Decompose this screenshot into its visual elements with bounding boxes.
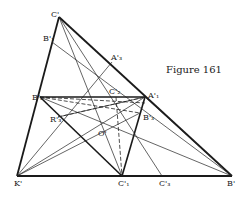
point-label-b3: B'₃ xyxy=(143,114,154,122)
figure-caption: Figure 161 xyxy=(166,64,222,75)
point-label-a3: A'₃ xyxy=(111,54,122,62)
point-label-c: C' xyxy=(51,11,59,19)
point-label-r3: R'₃ xyxy=(50,116,61,124)
point-label-b1: B'₁ xyxy=(43,35,54,43)
point-label-o: O' xyxy=(98,130,107,138)
point-label-c3: C'₃ xyxy=(159,180,171,188)
point-label-c2: C'₂ xyxy=(109,88,121,96)
point-label-b2: B'₂ xyxy=(32,94,43,102)
point-label-c1: C'₁ xyxy=(118,180,130,188)
point-label-a1: A'₁ xyxy=(148,92,159,100)
point-label-k: K' xyxy=(14,180,22,188)
point-label-b: B' xyxy=(227,180,235,188)
